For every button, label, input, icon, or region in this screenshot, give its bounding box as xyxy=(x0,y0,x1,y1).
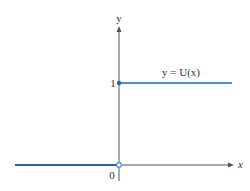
x-axis-arrow-icon xyxy=(228,163,234,168)
y-axis-arrow-icon xyxy=(117,26,122,32)
open-point-icon xyxy=(117,163,122,168)
origin-label: 0 xyxy=(109,169,115,181)
x-axis-label: x xyxy=(237,158,243,170)
closed-point-icon xyxy=(117,81,121,85)
y-axis-label: y xyxy=(116,12,122,24)
tick-one-label: 1 xyxy=(110,77,116,89)
step-function-diagram: y x 0 1 y = U(x) xyxy=(0,0,250,191)
function-label: y = U(x) xyxy=(162,66,200,79)
